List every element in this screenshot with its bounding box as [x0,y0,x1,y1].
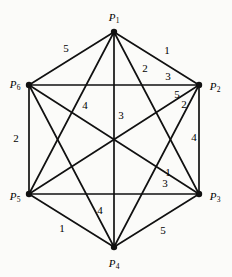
edge-weight-p4-p5: 1 [59,223,65,234]
graph-edge-p4-p5 [29,194,114,247]
vertex-label-name: P [210,80,217,92]
vertex-label-subscript: 4 [116,262,120,271]
vertex-label-p1: P1 [109,12,119,23]
edges-layer [29,32,199,247]
edge-weight-p2-p5: 5 [174,89,180,100]
edge-weight-p3-p5: 3 [162,178,168,189]
vertex-label-subscript: 1 [116,16,120,25]
vertex-node-p2 [196,82,202,88]
vertex-label-p4: P4 [109,258,119,269]
graph-figure: 133454252531142P1P2P3P4P5P6 [0,0,232,277]
edge-weight-p1-p4: 3 [118,110,124,121]
vertex-label-name: P [109,257,116,269]
edge-weight-p1-p2: 1 [164,45,170,56]
vertex-label-p3: P3 [210,191,220,202]
vertex-label-p6: P6 [10,79,20,90]
edge-weight-p1-p3: 3 [165,71,171,82]
vertex-node-p4 [111,244,117,250]
graph-edge-p1-p6 [29,32,114,85]
vertex-label-subscript: 6 [17,83,21,92]
vertex-label-subscript: 5 [17,195,21,204]
vertex-node-p5 [26,191,32,197]
edge-weight-p2-p6: 2 [142,63,148,74]
edge-weight-p1-p6: 5 [63,43,69,54]
vertex-label-name: P [109,11,116,23]
edge-weight-p4-p6: 4 [97,205,103,216]
vertex-label-p2: P2 [210,81,220,92]
edge-weight-p5-p6: 2 [13,133,19,144]
vertex-label-p5: P5 [10,191,20,202]
vertex-label-name: P [10,190,17,202]
vertex-label-subscript: 3 [217,195,221,204]
vertex-node-p6 [26,82,32,88]
edge-weight-p3-p4: 5 [160,225,166,236]
edge-weight-p3-p6: 1 [165,167,171,178]
edge-weight-p2-p4: 2 [181,99,187,110]
graph-edge-p4-p6 [29,85,114,247]
vertex-label-name: P [10,78,17,90]
graph-edge-p1-p2 [114,32,199,85]
vertex-label-name: P [210,190,217,202]
graph-edge-p3-p4 [114,194,199,247]
vertex-node-p3 [196,191,202,197]
vertex-node-p1 [111,29,117,35]
edge-weight-p1-p5: 4 [82,100,88,111]
edge-weight-p2-p3: 4 [191,132,197,143]
vertex-label-subscript: 2 [217,85,221,94]
